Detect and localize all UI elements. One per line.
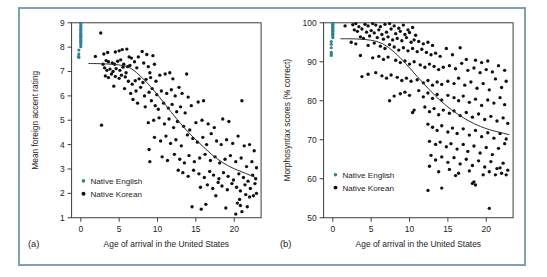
data-point-korean xyxy=(163,122,166,125)
data-point-english xyxy=(330,43,333,46)
data-point-korean xyxy=(481,173,484,176)
data-point-korean xyxy=(465,158,468,161)
y-tick-label: 60 xyxy=(307,174,317,184)
data-point-korean xyxy=(471,164,474,167)
data-point-korean xyxy=(419,63,422,66)
data-point-korean xyxy=(248,195,251,198)
data-point-korean xyxy=(134,89,137,92)
data-point-korean xyxy=(168,71,171,74)
data-point-korean xyxy=(104,74,107,77)
data-point-korean xyxy=(494,173,497,176)
data-point-korean xyxy=(217,177,220,180)
data-point-korean xyxy=(383,47,386,50)
data-point-korean xyxy=(167,117,170,120)
data-point-korean xyxy=(377,28,380,31)
data-point-korean xyxy=(478,71,481,74)
data-point-korean xyxy=(255,166,258,169)
plot-frame xyxy=(72,23,261,218)
data-point-korean xyxy=(504,173,507,176)
data-point-korean xyxy=(389,27,392,30)
data-point-korean xyxy=(135,66,138,69)
data-point-korean xyxy=(164,134,167,137)
data-point-korean xyxy=(102,52,105,55)
data-point-korean xyxy=(478,151,481,154)
data-point-korean xyxy=(114,67,117,70)
data-point-korean xyxy=(141,81,144,84)
data-point-korean xyxy=(204,203,207,206)
data-point-korean xyxy=(178,158,181,161)
data-point-korean xyxy=(226,188,229,191)
data-point-korean xyxy=(117,49,120,52)
data-point-korean xyxy=(202,99,205,102)
data-point-korean xyxy=(240,210,243,213)
data-point-korean xyxy=(446,161,449,164)
data-point-korean xyxy=(485,68,488,71)
data-point-english xyxy=(79,32,82,35)
data-point-korean xyxy=(481,82,484,85)
data-point-korean xyxy=(396,37,399,40)
data-point-korean xyxy=(231,142,234,145)
data-point-korean xyxy=(180,92,183,95)
data-point-korean xyxy=(134,79,137,82)
data-point-korean xyxy=(422,95,425,98)
data-point-korean xyxy=(468,101,471,104)
data-point-korean xyxy=(209,159,212,162)
data-point-korean xyxy=(133,60,136,63)
data-point-korean xyxy=(188,128,191,131)
data-point-korean xyxy=(252,149,255,152)
data-point-korean xyxy=(173,94,176,97)
data-point-korean xyxy=(110,72,113,75)
data-point-korean xyxy=(396,76,399,79)
data-point-korean xyxy=(406,49,409,52)
data-point-korean xyxy=(116,60,119,63)
data-point-korean xyxy=(192,169,195,172)
data-point-korean xyxy=(394,32,397,35)
data-point-korean xyxy=(392,94,395,97)
y-tick-label: 100 xyxy=(303,18,317,28)
data-point-korean xyxy=(353,28,356,31)
y-tick-label: 3 xyxy=(60,164,65,174)
data-point-korean xyxy=(394,59,397,62)
data-point-korean xyxy=(488,88,491,91)
data-point-korean xyxy=(486,59,489,62)
data-point-korean xyxy=(386,55,389,58)
data-point-korean xyxy=(477,159,480,162)
legend-label-english: Native English xyxy=(342,171,394,180)
data-point-korean xyxy=(366,73,369,76)
data-point-korean xyxy=(239,204,242,207)
data-point-korean xyxy=(462,127,465,130)
data-point-korean xyxy=(177,169,180,172)
data-point-korean xyxy=(474,59,477,62)
data-point-korean xyxy=(194,121,197,124)
data-point-korean xyxy=(227,120,230,123)
data-point-korean xyxy=(448,168,451,171)
data-point-korean xyxy=(472,66,475,69)
panel-a-plot: 12345678905101520Age of arrival in the U… xyxy=(20,9,272,264)
legend-label-korean: Native Korean xyxy=(90,190,141,199)
data-point-korean xyxy=(426,41,429,44)
data-point-korean xyxy=(365,30,368,33)
legend-marker-korean xyxy=(334,186,338,190)
data-point-korean xyxy=(371,22,374,25)
data-point-korean xyxy=(246,180,249,183)
data-point-korean xyxy=(383,23,386,26)
data-point-korean xyxy=(474,129,477,132)
data-point-korean xyxy=(186,133,189,136)
data-point-korean xyxy=(206,183,209,186)
data-point-korean xyxy=(409,41,412,44)
y-tick-label: 2 xyxy=(60,188,65,198)
data-point-korean xyxy=(150,99,153,102)
data-point-korean xyxy=(428,165,431,168)
data-point-korean xyxy=(380,33,383,36)
data-point-korean xyxy=(397,27,400,30)
data-point-korean xyxy=(474,183,477,186)
data-point-korean xyxy=(200,119,203,122)
data-point-korean xyxy=(454,174,457,177)
data-point-korean xyxy=(494,77,497,80)
data-point-korean xyxy=(211,187,214,190)
y-axis-title: Morphosyntax scores (% correct) xyxy=(282,59,292,182)
data-point-english xyxy=(79,29,82,32)
y-tick-label: 90 xyxy=(307,57,317,67)
data-point-korean xyxy=(431,126,434,129)
data-point-korean xyxy=(468,169,471,172)
